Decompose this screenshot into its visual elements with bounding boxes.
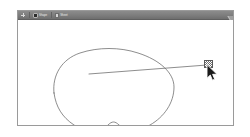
toolbar-shape-label: Shape: [39, 13, 47, 16]
anchor-point-handle[interactable]: [204, 60, 213, 68]
toolbar-separator-2: [51, 12, 52, 18]
toolbar-separator-1: [29, 12, 30, 18]
toolbar-group-left: Shape Sheet: [20, 11, 69, 19]
screen: Shape Sheet: [0, 0, 250, 137]
shape-tool-icon: [33, 13, 38, 18]
plus-icon: [21, 13, 25, 17]
drawing-canvas[interactable]: [18, 21, 233, 126]
toolbar-shape-button[interactable]: Shape: [32, 12, 48, 19]
pointer-line-segment[interactable]: [89, 65, 207, 74]
canvas-vector-layer: [18, 21, 234, 126]
resize-grip-icon[interactable]: [227, 11, 233, 20]
page-icon: [55, 13, 59, 18]
toolbar: Shape Sheet: [18, 11, 233, 20]
toolbar-add-button[interactable]: [20, 12, 26, 19]
toolbar-sheet-button[interactable]: Sheet: [54, 12, 68, 19]
drawing-application-window: Shape Sheet: [17, 10, 234, 126]
freehand-blob-path[interactable]: [54, 49, 174, 127]
toolbar-sheet-label: Sheet: [60, 13, 67, 16]
